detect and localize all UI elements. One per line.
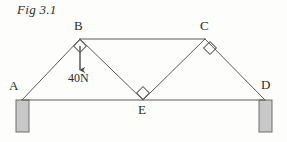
node-label-C: C — [200, 18, 209, 34]
truss-diagram-svg — [0, 0, 287, 142]
member-B-E — [80, 39, 143, 100]
member-C-E — [143, 39, 205, 100]
node-label-E: E — [138, 102, 146, 118]
member-A-B — [22, 39, 80, 100]
right-angle-marker-E — [137, 87, 150, 100]
truss-members-group — [22, 39, 265, 100]
truss-figure: Fig 3.1 A B C — [0, 0, 287, 142]
node-label-A: A — [9, 78, 18, 94]
member-C-D — [205, 39, 265, 100]
support-left — [16, 100, 29, 132]
node-label-B: B — [74, 18, 83, 34]
load-value-label: 40N — [68, 71, 89, 86]
support-right — [259, 100, 272, 132]
node-label-D: D — [261, 77, 270, 93]
